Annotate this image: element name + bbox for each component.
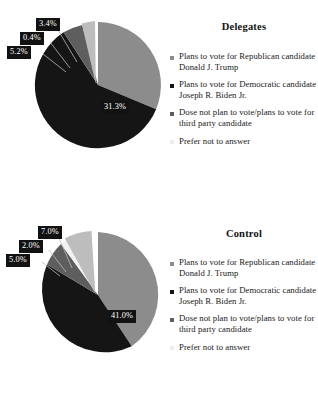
callout-no-vote-delegates: 5.2% xyxy=(7,46,31,59)
pie-chart-control: 7.0% 2.0% 5.0% 41.0% 44.0% Control Plans… xyxy=(0,210,318,419)
legend-item-democratic: Plans to vote for Democratic candidate J… xyxy=(170,79,318,100)
callout-light-control: 7.0% xyxy=(38,226,62,239)
legend-swatch-icon-prefer-not xyxy=(170,140,174,144)
legend-swatch-icon-democratic xyxy=(170,290,174,294)
chart-title-delegates: Delegates xyxy=(170,21,318,32)
legend-item-republican: Plans to vote for Republican candidate D… xyxy=(170,51,318,72)
legend-delegates: Plans to vote for Republican candidate D… xyxy=(170,51,318,153)
legend-item-no-vote: Dose not plan to vote/plans to vote for … xyxy=(170,107,318,128)
slice-label-republican-delegates: 31.3% xyxy=(101,101,129,114)
legend-item-no-vote: Dose not plan to vote/plans to vote for … xyxy=(170,313,318,334)
callout-prefer-not-control: 2.0% xyxy=(19,240,43,253)
legend-swatch-icon-no-vote xyxy=(170,112,174,116)
legend-control: Plans to vote for Republican candidate D… xyxy=(170,257,318,359)
legend-label-republican: Plans to vote for Republican candidate D… xyxy=(179,51,318,72)
legend-label-no-vote: Dose not plan to vote/plans to vote for … xyxy=(179,107,318,128)
callout-no-vote-control: 5.0% xyxy=(6,254,30,267)
callout-prefer-not-delegates: 0.4% xyxy=(20,32,44,45)
legend-swatch-icon-democratic xyxy=(170,84,174,88)
slice-label-democratic-delegates: 59.5% xyxy=(46,143,68,151)
legend-item-republican: Plans to vote for Republican candidate D… xyxy=(170,257,318,278)
chart-title-control: Control xyxy=(170,228,318,239)
callout-light-delegates: 3.4% xyxy=(36,18,60,31)
legend-swatch-icon-prefer-not xyxy=(170,346,174,350)
legend-label-no-vote: Dose not plan to vote/plans to vote for … xyxy=(179,313,318,334)
legend-label-democratic: Plans to vote for Democratic candidate J… xyxy=(179,285,318,306)
legend-label-prefer-not: Prefer not to answer xyxy=(179,136,250,147)
legend-swatch-icon-republican xyxy=(170,262,174,266)
legend-label-republican: Plans to vote for Republican candidate D… xyxy=(179,257,318,278)
legend-swatch-icon-no-vote xyxy=(170,318,174,322)
pie-chart-delegates: 3.4% 0.4% 5.2% 31.3% 59.5% Delegates Pla… xyxy=(0,0,318,209)
legend-item-prefer-not: Prefer not to answer xyxy=(170,136,318,147)
legend-item-prefer-not: Prefer not to answer xyxy=(170,342,318,353)
legend-item-democratic: Plans to vote for Democratic candidate J… xyxy=(170,285,318,306)
legend-label-prefer-not: Prefer not to answer xyxy=(179,342,250,353)
legend-swatch-icon-republican xyxy=(170,56,174,60)
legend-label-democratic: Plans to vote for Democratic candidate J… xyxy=(179,79,318,100)
slice-label-democratic-control: 44.0% xyxy=(53,345,75,353)
slice-label-republican-control: 41.0% xyxy=(108,310,136,323)
